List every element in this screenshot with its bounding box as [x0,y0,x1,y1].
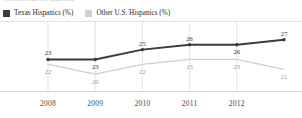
data-point-marker[interactable] [141,48,144,51]
x-tick-label-2012: 2012 [229,99,245,108]
plot-area [0,22,302,92]
data-label-other-u-s-hispanics-2012: 23 [234,63,241,70]
data-label-other-u-s-hispanics-2013: 21 [281,73,288,80]
chart-legend: Texas Hispanics (%) Other U.S. Hispanics… [3,8,170,18]
data-point-marker[interactable] [188,43,191,46]
x-axis-baseline [0,91,302,92]
data-label-texas-hispanics-2012: 26 [234,48,241,55]
data-label-other-u-s-hispanics-2008: 22 [45,68,52,75]
plot-svg [0,22,302,92]
data-label-texas-hispanics-2009: 23 [92,63,99,70]
data-label-other-u-s-hispanics-2011: 23 [186,63,193,70]
data-label-texas-hispanics-2013: 27 [281,30,288,37]
series-line-texas-hispanics [46,38,285,61]
series-polyline [48,40,284,60]
data-point-marker[interactable] [94,58,97,61]
legend-item-other-us-hispanics[interactable]: Other U.S. Hispanics (%) [85,9,170,17]
data-point-marker[interactable] [46,58,49,61]
series-polyline [48,59,284,74]
clipped-caption: Percent of state/U.S. population [4,0,74,2]
x-tick-label-2011: 2011 [182,99,198,108]
x-tick-label-2008: 2008 [40,99,56,108]
data-label-other-u-s-hispanics-2009: 20 [92,78,99,85]
data-point-marker[interactable] [235,43,238,46]
series-line-other-us-hispanics [48,59,284,74]
data-label-texas-hispanics-2011: 26 [186,35,193,42]
legend-swatch-light-icon [85,10,92,17]
data-point-marker[interactable] [282,38,285,41]
legend-swatch-dark-icon [3,10,10,17]
legend-item-texas-hispanics[interactable]: Texas Hispanics (%) [3,9,73,17]
line-chart: Percent of state/U.S. population Texas H… [0,0,302,118]
gridlines [48,22,237,92]
x-tick-label-2010: 2010 [134,99,150,108]
data-label-other-u-s-hispanics-2010: 22 [139,68,146,75]
data-label-texas-hispanics-2010: 25 [139,40,146,47]
x-tick-label-2009: 2009 [87,99,103,108]
x-axis-tick-labels: 20082009201020112012 [0,99,302,113]
legend-label-texas-hispanics: Texas Hispanics (%) [14,9,73,17]
data-label-texas-hispanics-2008: 23 [45,49,52,56]
legend-label-other-us-hispanics: Other U.S. Hispanics (%) [96,9,170,17]
